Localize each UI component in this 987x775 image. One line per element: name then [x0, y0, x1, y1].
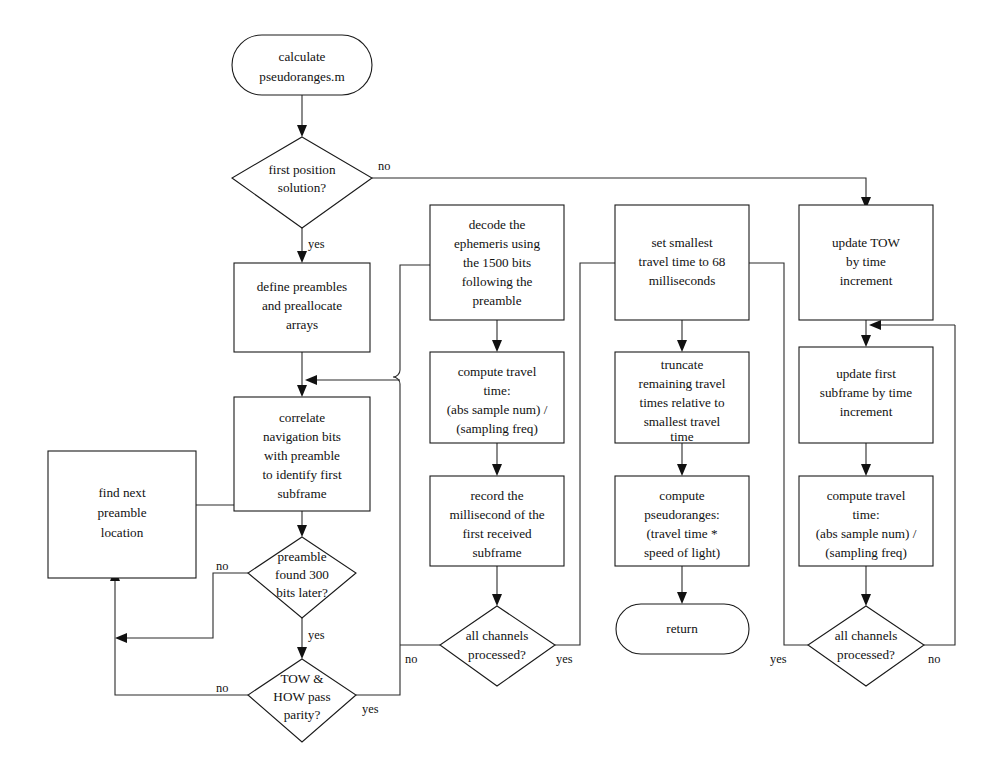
label-preamble-found-yes: yes — [308, 628, 325, 642]
arrowhead-define-to-correlate — [297, 385, 307, 397]
preamble-found-line-3: bits later? — [276, 585, 328, 600]
setsmallest-line-3: milliseconds — [649, 273, 716, 288]
arrowhead-updatefirst-to-computetravel-b — [861, 464, 871, 476]
node-start[interactable]: calculate pseudoranges.m — [232, 35, 372, 95]
updatefirst-line-2: subframe by time — [820, 385, 912, 400]
channels-b-line-2: processed? — [837, 647, 895, 662]
label-channels-b-yes: yes — [770, 652, 787, 666]
find-next-preamble-line-2: preamble — [97, 505, 146, 520]
node-record-millisecond[interactable]: record the millisecond of the first rece… — [430, 476, 564, 566]
node-tow-how-parity[interactable]: TOW & HOW pass parity? — [248, 659, 356, 742]
label-tow-how-no: no — [216, 681, 228, 695]
correlate-line-5: subframe — [277, 486, 326, 501]
updatetow-line-1: update TOW — [832, 235, 901, 250]
updatefirst-line-3: increment — [840, 404, 893, 419]
label-channels-a-yes: yes — [556, 652, 573, 666]
computetravel-a-line-3: (abs sample num) / — [447, 402, 548, 417]
define-preambles-line-3: arrays — [286, 317, 318, 332]
computetravel-a-line-4: (sampling freq) — [456, 421, 538, 436]
node-define-preambles[interactable]: define preambles and preallocate arrays — [234, 263, 370, 352]
pseudoranges-line-1: compute — [659, 488, 705, 503]
arrowhead-channels-a-no-into-correlate-junction — [305, 375, 317, 385]
computetravel-b-line-2: time: — [852, 507, 879, 522]
label-first-position-yes: yes — [308, 237, 325, 251]
conn-preamble-no-to-return-line — [126, 573, 248, 638]
find-next-preamble-line-1: find next — [98, 485, 146, 500]
node-truncate-remaining[interactable]: truncate remaining travel times relative… — [615, 352, 749, 444]
node-return[interactable]: return — [616, 604, 749, 654]
node-compute-pseudoranges[interactable]: compute pseudoranges: (travel time * spe… — [615, 476, 749, 566]
label-channels-a-no: no — [405, 652, 417, 666]
label-tow-how-yes: yes — [362, 702, 379, 716]
correlate-line-4: to identify first — [262, 467, 341, 482]
node-all-channels-processed-b[interactable]: all channels processed? — [808, 606, 924, 686]
computetravel-a-line-2: time: — [483, 383, 510, 398]
arrowhead-channels-b-no-merge-in — [869, 320, 881, 330]
node-update-tow[interactable]: update TOW by time increment — [799, 205, 933, 320]
decode-line-3: the 1500 bits — [463, 255, 531, 270]
first-position-line-2: solution? — [278, 180, 326, 195]
arrowhead-preamble-yes-to-tow — [297, 647, 307, 659]
arrowhead-preamble-no-to-return-line — [115, 633, 127, 643]
arrowhead-first-yes-to-define — [297, 251, 307, 263]
truncate-line-3: times relative to — [640, 395, 725, 410]
tow-how-line-3: parity? — [284, 707, 321, 722]
node-set-smallest-travel-time[interactable]: set smallest travel time to 68 milliseco… — [615, 205, 749, 320]
record-line-3: first received — [462, 526, 532, 541]
correlate-line-3: with preamble — [264, 448, 340, 463]
channels-a-line-2: processed? — [468, 647, 526, 662]
computetravel-b-line-1: compute travel — [827, 488, 906, 503]
correlate-line-2: navigation bits — [263, 429, 341, 444]
node-compute-travel-time-a[interactable]: compute travel time: (abs sample num) / … — [430, 352, 564, 443]
conn-tow-no-to-findnext — [115, 578, 248, 695]
channels-a-line-1: all channels — [466, 628, 529, 643]
record-line-1: record the — [470, 488, 523, 503]
decode-line-4: following the — [462, 274, 533, 289]
preamble-found-line-1: preamble — [277, 549, 326, 564]
start-terminator-shape — [232, 35, 372, 95]
decode-line-5: preamble — [472, 293, 521, 308]
label-channels-b-no: no — [928, 652, 940, 666]
arrowhead-setsmallest-to-truncate — [677, 340, 687, 352]
conn-first-no-to-update-tow — [372, 178, 866, 200]
node-update-first-subframe[interactable]: update first subframe by time increment — [799, 347, 933, 443]
node-find-next-preamble[interactable]: find next preamble location — [48, 451, 196, 578]
decode-line-1: decode the — [469, 217, 526, 232]
pseudoranges-line-2: pseudoranges: — [644, 507, 719, 522]
setsmallest-line-2: travel time to 68 — [639, 254, 726, 269]
computetravel-b-line-4: (sampling freq) — [825, 545, 907, 560]
node-decode-ephemeris[interactable]: decode the ephemeris using the 1500 bits… — [430, 205, 564, 320]
setsmallest-line-1: set smallest — [651, 235, 713, 250]
pseudoranges-line-3: (travel time * — [646, 526, 717, 541]
preamble-found-line-2: found 300 — [275, 567, 329, 582]
conn-tow-yes-line-hop — [393, 370, 400, 384]
node-correlate-navigation-bits[interactable]: correlate navigation bits with preamble … — [234, 397, 370, 511]
node-all-channels-processed-a[interactable]: all channels processed? — [440, 606, 555, 686]
label-first-position-no: no — [378, 159, 390, 173]
updatefirst-line-1: update first — [836, 366, 896, 381]
all-channels-a-decision-shape — [440, 606, 555, 686]
node-first-position-solution[interactable]: first position solution? — [232, 137, 372, 228]
truncate-line-4: smallest travel — [644, 414, 721, 429]
arrowhead-decode-to-computetravel-a — [492, 340, 502, 352]
tow-how-line-1: TOW & — [280, 671, 324, 686]
computetravel-a-line-1: compute travel — [458, 364, 537, 379]
return-label: return — [666, 621, 698, 636]
correlate-line-1: correlate — [279, 410, 325, 425]
node-preamble-found-300[interactable]: preamble found 300 bits later? — [248, 537, 356, 618]
pseudoranges-line-4: speed of light) — [644, 545, 720, 560]
tow-how-line-2: HOW pass — [273, 689, 330, 704]
flowchart-canvas: calculate pseudoranges.m first position … — [0, 0, 987, 775]
conn-channels-b-yes-to-setsmallest — [742, 263, 808, 645]
truncate-line-2: remaining travel — [639, 376, 726, 391]
arrowhead-record-to-channels-a — [492, 594, 502, 606]
decode-line-2: ephemeris using — [454, 236, 540, 251]
record-line-4: subframe — [472, 545, 521, 560]
node-compute-travel-time-b[interactable]: compute travel time: (abs sample num) / … — [799, 476, 933, 566]
arrowhead-start-to-first-decision — [297, 125, 307, 137]
updatetow-line-2: by time — [846, 254, 886, 269]
define-preambles-line-2: and preallocate — [262, 298, 342, 313]
record-line-2: millisecond of the — [449, 507, 544, 522]
arrowhead-computetravel-b-to-channels-b — [861, 594, 871, 606]
arrowhead-pseudoranges-to-return — [677, 592, 687, 604]
